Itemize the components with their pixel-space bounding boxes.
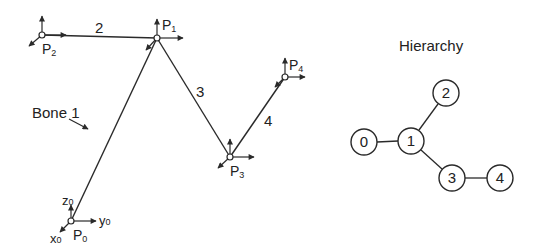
node-1-label: 1: [407, 132, 415, 149]
node-4-label: 4: [496, 169, 504, 186]
skeleton-labels: 2 3 4 Bone 1 P2 P1 P4 P3 P0 z0 y0 x0: [32, 17, 303, 246]
hierarchy-graph: Hierarchy 0 1 2 3 4: [351, 37, 513, 191]
bone-3-label: 3: [196, 83, 204, 100]
p3-label: P3: [230, 163, 244, 180]
joint-p4-icon: [282, 74, 288, 80]
skeleton-diagram: 2 3 4 Bone 1 P2 P1 P4 P3 P0 z0 y0 x0 Hie…: [0, 0, 538, 251]
bone-2-label: 2: [95, 19, 103, 36]
bone-1: [71, 38, 157, 221]
joint-p3-icon: [227, 154, 233, 160]
edge-1-2: [419, 104, 438, 130]
node-2-label: 2: [442, 84, 450, 101]
x0-axis-label: x0: [50, 231, 62, 246]
p0-label: P0: [73, 227, 87, 244]
joint-p2-icon: [39, 32, 45, 38]
z0-axis-label: z0: [62, 193, 74, 208]
bone-1-callout-label: Bone 1: [32, 104, 80, 121]
hierarchy-title: Hierarchy: [399, 37, 464, 54]
y0-axis-label: y0: [99, 213, 111, 228]
edge-0-1: [377, 141, 398, 142]
joint-p1-icon: [154, 35, 160, 41]
bone-4-label: 4: [264, 112, 272, 129]
p4-label: P4: [289, 57, 303, 74]
node-0-label: 0: [360, 133, 368, 150]
edge-1-3: [421, 150, 442, 169]
bones: [42, 35, 285, 221]
p1-label: P1: [162, 17, 176, 34]
node-3-label: 3: [448, 169, 456, 186]
joint-p0-icon: [68, 218, 74, 224]
bone-4: [230, 77, 285, 157]
p2-label: P2: [42, 41, 56, 58]
bone-3: [157, 38, 230, 157]
